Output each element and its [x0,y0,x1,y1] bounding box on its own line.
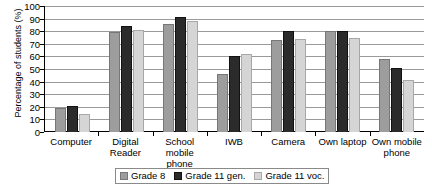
bar [241,54,252,132]
bars-layer [45,6,424,132]
x-axis-category-label: Camera [261,136,315,169]
bar [67,106,78,132]
bar [325,31,336,132]
y-axis-tick-mark [40,94,44,95]
bar [271,40,282,132]
legend-label: Grade 11 voc. [265,170,324,181]
y-axis-tick-label: 90 [14,15,40,24]
x-axis-category-label: IWB [207,136,261,169]
x-axis-category-label: Own laptop [315,136,369,169]
bar [187,21,198,132]
chart-legend: Grade 8Grade 11 gen.Grade 11 voc. [115,168,329,184]
bar [349,38,360,133]
y-axis-tick-label: 20 [14,103,40,112]
legend-item: Grade 11 voc. [254,170,324,181]
bar-group [99,6,153,132]
bar [79,114,90,132]
y-axis-tick-label: 30 [14,90,40,99]
bar [403,80,414,132]
x-axis-category-label: School mobile phone [153,136,207,169]
y-axis-tick-label: 10 [14,115,40,124]
legend-swatch-icon [174,172,182,180]
y-axis-tick-label: 60 [14,52,40,61]
bar [109,32,120,132]
y-axis-tick-label: 40 [14,78,40,87]
bar [55,108,66,132]
bar [175,17,186,132]
y-axis-tick-mark [40,56,44,57]
bar-group [45,6,99,132]
bar [283,31,294,132]
y-axis-tick-label: 0 [14,128,40,137]
y-axis-tick-label: 70 [14,40,40,49]
bar [163,24,174,132]
y-axis-tick-mark [40,6,44,7]
y-axis-tick-label: 80 [14,27,40,36]
bar-group [370,6,424,132]
y-axis-tick-mark [40,69,44,70]
legend-swatch-icon [254,172,262,180]
bar [379,59,390,132]
legend-label: Grade 11 gen. [185,170,245,181]
y-axis-tick-mark [40,82,44,83]
y-axis-tick-label: 100 [14,2,40,11]
x-axis-category-label: Own mobile phone [370,136,424,169]
bar [391,68,402,132]
x-axis-labels: ComputerDigital ReaderSchool mobile phon… [44,136,424,169]
y-axis-tick-mark [40,44,44,45]
legend-item: Grade 8 [120,170,165,181]
y-axis-tick-mark [40,31,44,32]
legend-item: Grade 11 gen. [174,170,245,181]
y-axis-tick-mark [40,19,44,20]
y-axis-tick-mark [40,132,44,133]
legend-label: Grade 8 [131,170,165,181]
bar [217,74,228,132]
bar [295,39,306,132]
bar-group [153,6,207,132]
y-axis-tick-mark [40,119,44,120]
bar [133,30,144,132]
bar-group [316,6,370,132]
bar-group [262,6,316,132]
bar [229,56,240,132]
legend-swatch-icon [120,172,128,180]
bar-chart: Percentage of students (%) ComputerDigit… [0,0,432,187]
y-axis-tick-label: 50 [14,65,40,74]
y-axis-tick-mark [40,107,44,108]
x-axis-category-label: Digital Reader [98,136,152,169]
bar [121,26,132,132]
bar [337,31,348,132]
x-axis-category-label: Computer [44,136,98,169]
bar-group [207,6,261,132]
